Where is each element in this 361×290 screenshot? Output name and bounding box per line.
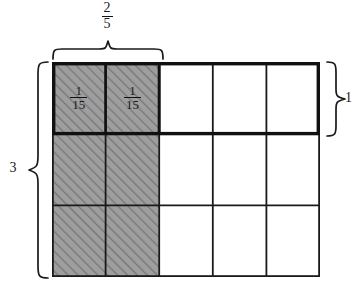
top-brace-label: 2 5 [86,1,128,31]
fraction-area-model-figure: 2 5 3 1 [0,0,361,290]
cell-label-r0c1: 1 15 [106,62,160,134]
fraction-denominator: 5 [102,16,113,32]
cell-label-r0c0: 1 15 [52,62,106,134]
fraction-two-fifths: 2 5 [102,1,113,31]
left-brace [26,56,50,284]
fraction-numerator: 1 [74,84,85,98]
left-brace-label: 3 [4,160,22,176]
fraction-denominator: 15 [70,97,87,112]
fraction-numerator: 2 [102,1,113,16]
fraction-one-fifteenth: 1 15 [70,84,87,112]
right-brace-label: 1 [345,90,359,106]
fraction-one-fifteenth: 1 15 [124,84,141,112]
fraction-denominator: 15 [124,97,141,112]
top-brace [44,36,172,60]
area-model-grid: 1 15 1 15 [52,62,320,277]
fraction-numerator: 1 [127,84,138,98]
